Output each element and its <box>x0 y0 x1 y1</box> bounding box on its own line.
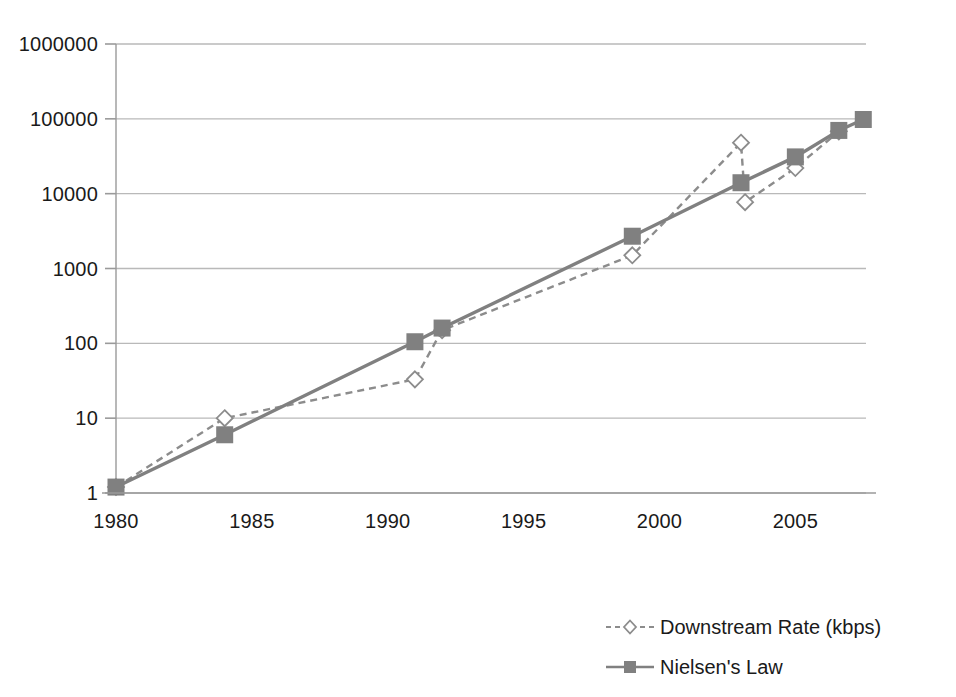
data-point-square <box>733 174 750 191</box>
data-point-diamond <box>407 371 423 387</box>
legend-label-nielsens-law: Nielsen's Law <box>656 656 783 679</box>
y-axis-label: 1000 <box>53 257 98 280</box>
chart-plot-area <box>0 0 956 697</box>
data-point-square <box>434 320 451 337</box>
data-point-square <box>624 228 641 245</box>
x-axis-label: 1990 <box>365 510 410 533</box>
y-axis-label: 1000000 <box>19 33 98 56</box>
legend-label-downstream-rate: Downstream Rate (kbps) <box>656 616 881 639</box>
legend-item-nielsens-law: Nielsen's Law <box>604 647 944 687</box>
x-axis-label: 2005 <box>773 510 818 533</box>
y-axis-label: 10000 <box>41 182 98 205</box>
chart-legend: Downstream Rate (kbps) Nielsen's Law <box>604 607 944 687</box>
legend-item-downstream-rate: Downstream Rate (kbps) <box>604 607 944 647</box>
x-axis-label: 1995 <box>501 510 546 533</box>
x-axis-label: 1985 <box>229 510 274 533</box>
data-point-square <box>787 148 804 165</box>
y-axis-label: 1 <box>87 482 98 505</box>
x-axis-label: 1980 <box>93 510 138 533</box>
data-point-square <box>406 333 423 350</box>
y-axis-label: 100 <box>64 332 98 355</box>
legend-marker-filled-square-icon <box>604 658 656 676</box>
data-point-diamond <box>737 194 753 210</box>
y-axis-label: 10 <box>75 407 98 430</box>
y-axis-label: 100000 <box>30 107 98 130</box>
chart-root: 1101001000100001000001000000 19801985199… <box>0 0 956 697</box>
data-point-square <box>216 426 233 443</box>
x-axis-label: 2000 <box>637 510 682 533</box>
data-point-square <box>830 122 847 139</box>
data-point-diamond <box>217 410 233 426</box>
data-point-square <box>855 111 872 128</box>
legend-marker-open-diamond-icon <box>604 618 656 636</box>
